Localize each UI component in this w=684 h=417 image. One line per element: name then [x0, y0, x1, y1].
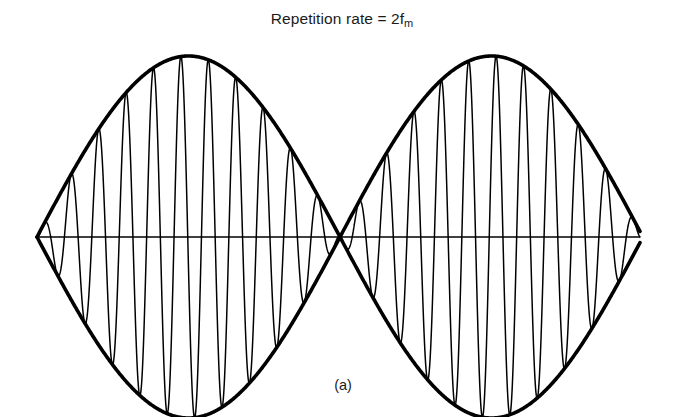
waveform-plot [0, 0, 684, 417]
figure-caption-label: (a) [334, 377, 352, 393]
figure-caption: (a) [0, 377, 684, 393]
upper-envelope-line [37, 56, 640, 237]
figure-panel: Repetition rate = 2fm (a) [0, 0, 684, 417]
